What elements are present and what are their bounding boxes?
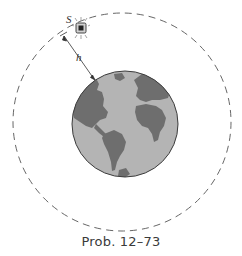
figure-caption: Prob. 12–73 — [0, 234, 242, 249]
altitude-label: h — [76, 51, 82, 63]
satellite-icon — [72, 17, 90, 39]
satellite-label: S — [66, 13, 72, 25]
orbit-diagram — [0, 0, 242, 256]
earth-globe — [72, 71, 178, 178]
